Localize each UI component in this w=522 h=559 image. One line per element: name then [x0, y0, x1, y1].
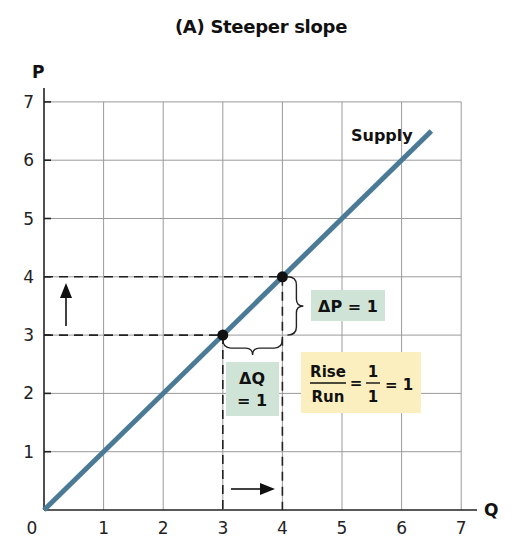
brace-horizontal	[223, 339, 283, 355]
up-arrow-icon	[60, 283, 72, 298]
x-tick-label: 6	[396, 518, 407, 538]
x-tick-label: 0	[27, 518, 38, 538]
x-tick-label: 5	[337, 518, 348, 538]
equals-sign: =	[350, 374, 363, 392]
denominator: 1	[368, 388, 378, 406]
y-tick-label: 7	[23, 92, 34, 112]
delta-q-label-line2: = 1	[237, 391, 267, 410]
x-tick-label: 1	[98, 518, 109, 538]
y-axis-label: P	[32, 62, 44, 82]
delta-q-label-line1: ΔQ	[239, 369, 265, 388]
y-tick-label: 4	[23, 267, 34, 287]
run-label: Run	[312, 388, 345, 406]
data-point	[217, 330, 228, 341]
chart-canvas: 123456701234567PQΔP = 1ΔQ= 1RiseRun=11= …	[0, 0, 522, 559]
y-tick-label: 3	[23, 325, 34, 345]
brace-vertical	[287, 277, 303, 335]
result: = 1	[385, 376, 413, 394]
y-tick-label: 5	[23, 209, 34, 229]
x-tick-label: 7	[456, 518, 467, 538]
x-tick-label: 2	[158, 518, 169, 538]
y-tick-label: 6	[23, 150, 34, 170]
x-tick-label: 3	[217, 518, 228, 538]
supply-label: Supply	[351, 126, 413, 145]
data-point	[277, 271, 288, 282]
delta-p-label: ΔP = 1	[318, 297, 378, 316]
right-arrow-icon	[260, 483, 275, 495]
x-axis-label: Q	[484, 500, 498, 520]
rise-label: Rise	[310, 363, 346, 381]
y-tick-label: 2	[23, 383, 34, 403]
numerator: 1	[368, 363, 378, 381]
x-tick-label: 4	[277, 518, 288, 538]
y-tick-label: 1	[23, 442, 34, 462]
